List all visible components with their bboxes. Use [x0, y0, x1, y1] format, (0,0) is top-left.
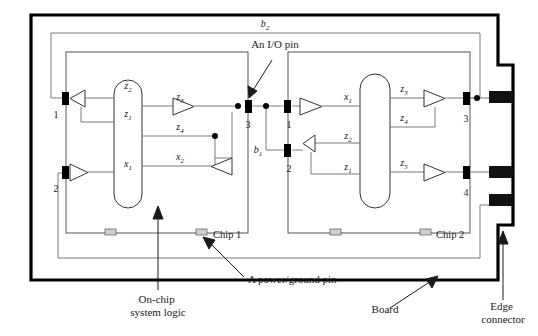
edge-connector-tab [489, 91, 513, 103]
chip1-junction-dot [212, 133, 218, 139]
diagram-canvas: 1 2 3 z2 z1 x1 z3 z4 x2 Chip 1 [0, 0, 538, 336]
chip2-name: Chip 2 [436, 229, 464, 240]
chip2-pin-2 [284, 144, 291, 157]
edge-connector-line2: connector [481, 313, 525, 325]
chip1-name: Chip 1 [213, 229, 241, 240]
on-chip-logic-line2: system logic [130, 306, 185, 318]
on-chip-logic-line1: On-chip [139, 293, 176, 305]
chip2-pin-2-number: 2 [287, 163, 292, 174]
chip1-system-logic-block [114, 80, 142, 208]
chip1-junction-dot [235, 103, 241, 109]
edge-connector-line1: Edge [490, 300, 513, 312]
chip2-junction-dot [263, 103, 269, 109]
chip2-power-ground-pin [330, 229, 341, 235]
chip2-pin-1 [284, 100, 291, 113]
boundary-scan-diagram: 1 2 3 z2 z1 x1 z3 z4 x2 Chip 1 [0, 0, 538, 336]
io-pin-label: An I/O pin [251, 38, 299, 50]
chip2-pin-4 [463, 166, 470, 179]
chip1-pin-1 [62, 92, 69, 105]
chip2-system-logic-block [360, 74, 390, 208]
chip1-pin-3-number: 3 [246, 119, 251, 130]
chip1-pin-3 [245, 100, 252, 113]
chip1-pin-2-number: 2 [54, 183, 59, 194]
chip2-junction-dot [474, 95, 480, 101]
chip2-pin-3 [463, 92, 470, 105]
edge-connector-tab [489, 194, 513, 206]
edge-connector-tab [489, 166, 513, 178]
chip2-power-ground-pin [420, 229, 431, 235]
chip1-pin-1-number: 1 [54, 109, 59, 120]
power-ground-label: A power/ground pin [248, 273, 337, 285]
chip1-power-ground-pin [196, 229, 207, 235]
board-label: Board [372, 303, 399, 315]
chip2-pin-3-number: 3 [464, 113, 469, 124]
chip2-pin-1-number: 1 [287, 119, 292, 130]
chip2-pin-4-number: 4 [464, 187, 469, 198]
chip1-pin-2 [62, 166, 69, 179]
chip1-power-ground-pin [105, 229, 116, 235]
background [0, 0, 538, 336]
